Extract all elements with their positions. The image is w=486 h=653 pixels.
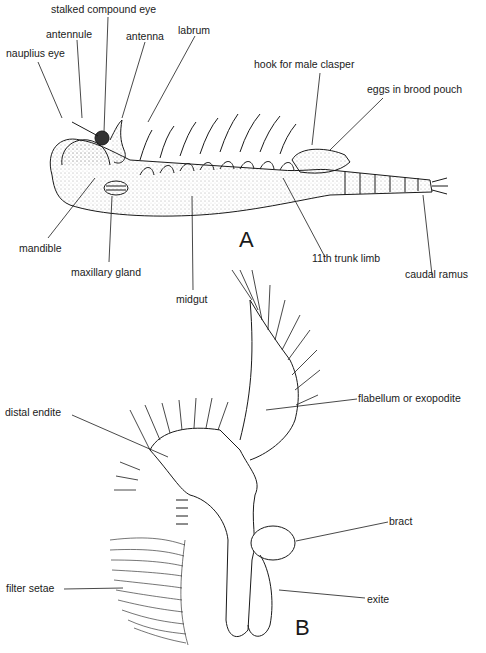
leader-lines — [38, 17, 432, 598]
label-flabellum-or-exopodite: flabellum or exopodite — [358, 393, 461, 404]
label-antennule: antennule — [46, 29, 92, 40]
figure-a-body — [50, 114, 448, 216]
label-midgut: midgut — [176, 294, 208, 305]
label-stalked-compound-eye: stalked compound eye — [51, 4, 156, 15]
label-hook-for-male-clasper: hook for male clasper — [254, 59, 354, 70]
label-11th-trunk-limb: 11th trunk limb — [312, 253, 380, 264]
label-eggs-in-brood-pouch: eggs in brood pouch — [367, 84, 462, 95]
label-exite: exite — [367, 594, 389, 605]
label-filter-setae: filter setae — [6, 583, 54, 594]
panel-letter-b: B — [295, 617, 310, 639]
panel-letter-a: A — [239, 229, 254, 251]
label-maxillary-gland: maxillary gland — [71, 267, 141, 278]
label-caudal-ramus: caudal ramus — [405, 269, 468, 280]
label-distal-endite: distal endite — [5, 407, 61, 418]
label-mandible: mandible — [19, 243, 62, 254]
anatomy-illustration — [0, 0, 486, 653]
label-antenna: antenna — [126, 31, 164, 42]
label-labrum: labrum — [178, 25, 210, 36]
label-bract: bract — [389, 516, 412, 527]
figure-b-limb — [110, 270, 320, 645]
label-nauplius-eye: nauplius eye — [6, 48, 65, 59]
